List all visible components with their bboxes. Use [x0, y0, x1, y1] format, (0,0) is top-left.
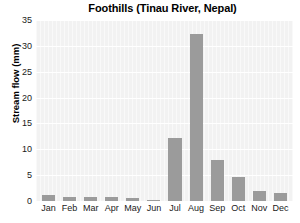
y-tick-label: 10 — [6, 144, 32, 154]
x-tick-label: Mar — [80, 203, 101, 221]
bar — [211, 160, 224, 201]
chart-title: Foothills (Tinau River, Nepal) — [30, 2, 295, 14]
bar — [84, 197, 97, 201]
x-tick-label: Oct — [228, 203, 249, 221]
x-tick-label: Feb — [59, 203, 80, 221]
bar — [274, 193, 287, 201]
bar-slot — [228, 20, 249, 201]
bar — [253, 191, 266, 201]
bar — [63, 197, 76, 201]
bar — [232, 177, 245, 201]
bar-slot — [207, 20, 228, 201]
x-tick-label: Apr — [101, 203, 122, 221]
x-tick-label: May — [122, 203, 143, 221]
bar-slot — [143, 20, 164, 201]
bar-chart: Foothills (Tinau River, Nepal) Stream fl… — [0, 0, 300, 223]
x-tick-label: Aug — [186, 203, 207, 221]
plot-area — [36, 20, 293, 201]
bar-slot — [59, 20, 80, 201]
y-axis-ticks: 05101520253035 — [0, 20, 32, 201]
x-tick-label: Sep — [207, 203, 228, 221]
x-tick-label: Jan — [38, 203, 59, 221]
y-tick-label: 20 — [6, 93, 32, 103]
y-tick-label: 15 — [6, 118, 32, 128]
bar-series — [36, 20, 293, 201]
x-tick-label: Jul — [164, 203, 185, 221]
y-tick-label: 35 — [6, 15, 32, 25]
bar-slot — [164, 20, 185, 201]
bar — [126, 198, 139, 201]
x-tick-label: Dec — [270, 203, 291, 221]
x-axis-ticks: JanFebMarAprMayJunJulAugSepOctNovDec — [36, 203, 293, 221]
bar — [168, 138, 181, 201]
bar — [105, 197, 118, 201]
bar-slot — [249, 20, 270, 201]
bar-slot — [101, 20, 122, 201]
x-tick-label: Jun — [143, 203, 164, 221]
bar — [42, 195, 55, 201]
y-tick-label: 5 — [6, 170, 32, 180]
bar-slot — [122, 20, 143, 201]
y-tick-label: 25 — [6, 67, 32, 77]
bar-slot — [80, 20, 101, 201]
x-tick-label: Nov — [249, 203, 270, 221]
bar — [147, 200, 160, 201]
bar — [190, 34, 203, 201]
y-tick-label: 30 — [6, 41, 32, 51]
gridline — [36, 201, 293, 202]
bar-slot — [38, 20, 59, 201]
bar-slot — [270, 20, 291, 201]
bar-slot — [186, 20, 207, 201]
y-tick-label: 0 — [6, 196, 32, 206]
